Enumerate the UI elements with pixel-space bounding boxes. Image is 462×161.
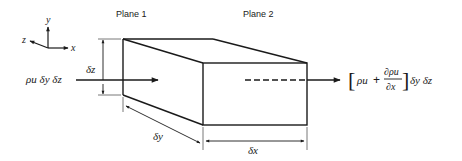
plane-2-label: Plane 2: [243, 9, 274, 19]
coordinate-axes: y x z: [21, 14, 76, 53]
derivative-numerator: ∂ρu: [384, 66, 399, 77]
control-volume-diagram: y x z Plane 1 Plane 2 ρu δy δz: [0, 0, 462, 161]
open-bracket: [: [348, 67, 355, 92]
z-axis-arrow: [30, 41, 48, 48]
plus-sign: +: [373, 73, 380, 87]
dy-dimension: δy: [123, 97, 203, 150]
outflow-tail: δy δz: [410, 74, 433, 86]
plane-1-label: Plane 1: [116, 9, 147, 19]
inflow-label: ρu δy δz: [25, 73, 62, 85]
outflow-expression: [ ρu + ∂ρu ∂x ] δy δz: [348, 66, 433, 92]
dx-dimension: δx: [206, 127, 307, 156]
dy-label: δy: [153, 130, 163, 142]
outflow-term-rho-u: ρu: [356, 74, 368, 86]
dz-label: δz: [86, 63, 96, 75]
dz-dimension: δz: [86, 39, 121, 95]
z-axis-label: z: [21, 34, 26, 45]
dx-label: δx: [248, 144, 258, 156]
close-bracket: ]: [402, 67, 409, 92]
x-axis-label: x: [70, 42, 76, 53]
control-volume-box: [123, 39, 307, 125]
y-axis-label: y: [45, 14, 51, 25]
derivative-denominator: ∂x: [386, 81, 396, 92]
